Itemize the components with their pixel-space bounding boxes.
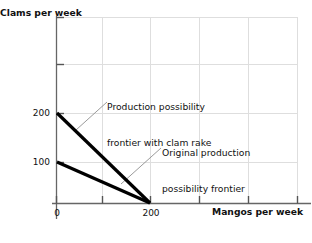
annotation-clam-rake-line1: Production possibility [107, 101, 211, 113]
annotation-original-ppf: Original production possibility frontier [162, 123, 250, 219]
ppf-chart-figure: Clams per week Mangos per week 200 100 0… [0, 0, 312, 243]
y-tick-label-100: 100 [20, 157, 50, 167]
y-tick-label-200: 200 [20, 108, 50, 118]
annotation-original-ppf-line2: possibility frontier [162, 183, 250, 195]
x-tick-label-0: 0 [51, 208, 63, 218]
y-axis-title: Clams per week [0, 7, 53, 19]
x-tick-label-200: 200 [138, 208, 164, 218]
annotation-original-ppf-line1: Original production [162, 147, 250, 159]
y-axis-ticks [57, 18, 65, 163]
